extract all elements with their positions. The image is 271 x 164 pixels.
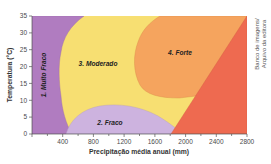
- y-tick-25: 25: [20, 46, 28, 53]
- credit-line-1: Banco de imagens/: [254, 18, 260, 70]
- image-credit: Banco de imagens/ Arquivo da editora: [254, 18, 267, 70]
- x-tick-800: 800: [88, 138, 99, 145]
- x-tick-2400: 2400: [209, 138, 224, 145]
- label-fraco: 2. Fraco: [96, 119, 122, 126]
- y-tick-35: 35: [20, 12, 28, 19]
- y-tick-5: 5: [23, 113, 27, 120]
- y-tick-30: 30: [20, 29, 28, 36]
- label-muito-fraco: 1. Muito Fraco: [40, 53, 47, 98]
- y-tick-20: 20: [20, 63, 28, 70]
- label-forte: 4. Forte: [167, 49, 192, 56]
- x-tick-labels: 400 800 1200 1600 2000 2400 2800: [57, 138, 254, 145]
- x-tick-400: 400: [57, 138, 68, 145]
- y-tick-labels: 0 5 10 15 20 25 30 35: [20, 12, 28, 137]
- x-tick-2800: 2800: [240, 138, 255, 145]
- x-tick-1600: 1600: [148, 138, 163, 145]
- x-axis-title: Precipitação média anual (mm): [89, 148, 189, 156]
- x-tick-2000: 2000: [178, 138, 193, 145]
- label-moderado: 3. Moderado: [79, 60, 118, 67]
- y-axis-title: Temperatura (°C): [6, 48, 14, 103]
- x-ticks: [32, 134, 247, 137]
- y-tick-15: 15: [20, 80, 28, 87]
- plot-regions: [32, 16, 247, 134]
- credit-line-2: Arquivo da editora: [261, 19, 267, 68]
- x-tick-1200: 1200: [117, 138, 132, 145]
- y-ticks: [29, 16, 32, 134]
- y-tick-0: 0: [23, 130, 27, 137]
- y-tick-10: 10: [20, 97, 28, 104]
- weathering-intensity-chart: 0 5 10 15 20 25 30 35 400 800 1200 1600 …: [0, 0, 271, 164]
